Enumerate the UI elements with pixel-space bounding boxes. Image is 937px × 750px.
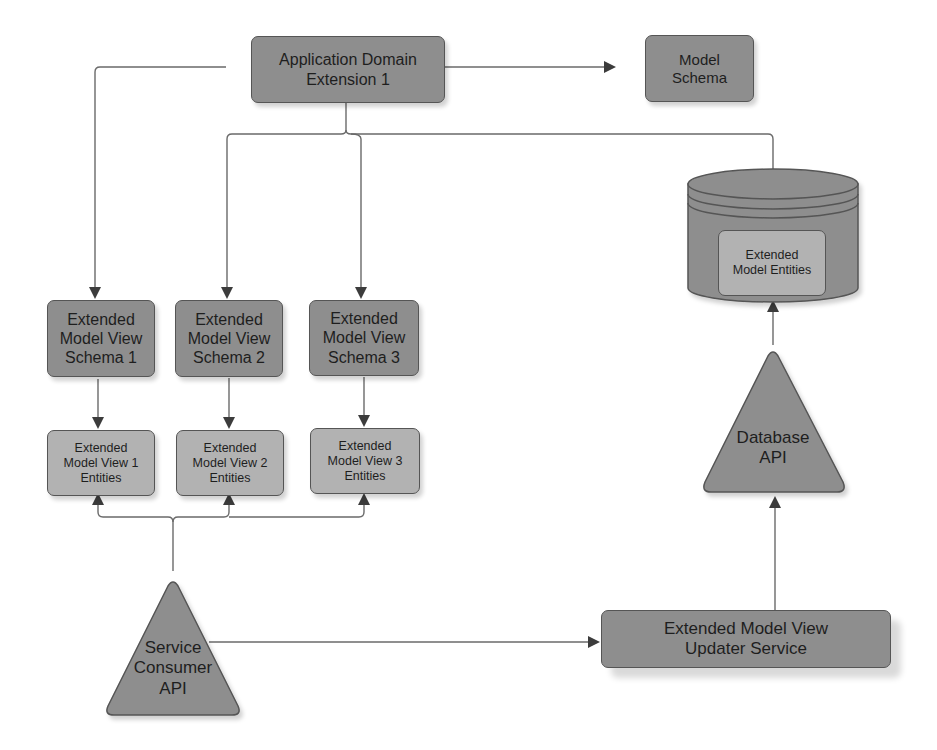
label: Extended Model Entities [733,248,812,278]
service-consumer-api-label: Service Consumer API [113,638,233,699]
architecture-diagram: Application Domain Extension 1 Model Sch… [0,0,937,750]
node-view-entities-2: Extended Model View 2 Entities [176,430,284,496]
edge-split-schema2 [227,130,346,297]
node-view-entities-1: Extended Model View 1 Entities [47,430,155,496]
label: Extended Model View 2 Entities [193,441,268,486]
label: Extended Model View 1 Entities [64,441,139,486]
label: Extended Model View 3 Entities [328,439,403,484]
label: Extended Model View Updater Service [664,619,828,660]
label: Application Domain Extension 1 [279,50,417,88]
node-view-schema-1: Extended Model View Schema 1 [47,300,155,377]
node-view-schema-3: Extended Model View Schema 3 [309,300,419,376]
edge-consumer-entities1 [98,495,173,522]
label: Extended Model View Schema 3 [323,309,405,367]
label: Extended Model View Schema 2 [188,310,270,368]
edge-consumer-entities3 [229,495,364,517]
node-view-entities-3: Extended Model View 3 Entities [310,428,420,494]
label: Extended Model View Schema 1 [60,310,142,368]
database-api-label: Database API [713,428,833,469]
node-view-schema-2: Extended Model View Schema 2 [175,300,283,377]
edge-consumer-entities2 [173,495,229,522]
edge-split-schema3 [346,130,361,297]
node-updater-service: Extended Model View Updater Service [601,610,891,668]
label: Model Schema [672,51,727,87]
node-extended-model-entities: Extended Model Entities [718,230,826,296]
database-api-triangle [704,352,844,492]
node-model-schema: Model Schema [645,35,754,102]
node-application-domain-extension-main: Application Domain Extension 1 [251,36,445,103]
edge-appdomain-schema1 [95,67,226,297]
